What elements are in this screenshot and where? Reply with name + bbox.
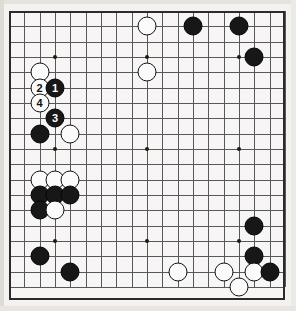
scan-edge-top	[0, 0, 296, 4]
star-point-9-3	[145, 55, 149, 59]
star-point-15-15	[237, 239, 241, 243]
scan-edge-bottom	[0, 306, 296, 311]
stone-white-3-13[interactable]	[45, 201, 64, 220]
stone-black-2-8[interactable]	[30, 124, 49, 143]
scan-edge-right	[291, 0, 296, 311]
stone-black-15-1[interactable]	[229, 17, 248, 36]
star-point-3-3	[53, 55, 57, 59]
move-number-label-3: 3	[46, 110, 63, 127]
grid-line-vertical-18	[285, 11, 286, 287]
stone-black-3-5[interactable]: 1	[45, 78, 64, 97]
stone-black-3-7[interactable]: 3	[45, 109, 64, 128]
stone-white-9-4[interactable]	[137, 63, 156, 82]
star-point-9-15	[145, 239, 149, 243]
stone-white-14-17[interactable]	[214, 262, 233, 281]
star-point-3-9	[53, 147, 57, 151]
stone-white-9-1[interactable]	[137, 17, 156, 36]
stone-white-4-8[interactable]	[61, 124, 80, 143]
star-point-3-15	[53, 239, 57, 243]
star-point-15-3	[237, 55, 241, 59]
stone-black-16-14[interactable]	[245, 216, 264, 235]
go-diagram-root: 2143	[0, 0, 296, 311]
stone-black-17-17[interactable]	[260, 262, 279, 281]
stone-white-15-18[interactable]	[229, 277, 248, 296]
scan-edge-left	[0, 0, 4, 311]
stone-white-11-17[interactable]	[168, 262, 187, 281]
stone-black-4-12[interactable]	[61, 185, 80, 204]
move-number-label-1: 1	[46, 79, 63, 96]
star-point-9-9	[145, 147, 149, 151]
stone-black-4-17[interactable]	[61, 262, 80, 281]
stone-black-2-16[interactable]	[30, 247, 49, 266]
go-board[interactable]: 2143	[9, 11, 286, 301]
stone-black-12-1[interactable]	[183, 17, 202, 36]
star-point-15-9	[237, 147, 241, 151]
stone-black-16-3[interactable]	[245, 47, 264, 66]
